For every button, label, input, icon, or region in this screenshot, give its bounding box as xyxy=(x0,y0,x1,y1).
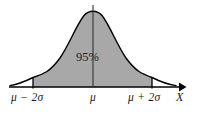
axis-label-mu: μ xyxy=(90,92,96,104)
axis-label-mu-minus-2sigma: μ − 2σ xyxy=(11,92,44,104)
axis-label-mu-plus-2sigma: μ + 2σ xyxy=(128,92,161,104)
normal-distribution-figure: μ − 2σ μ μ + 2σ X 95% xyxy=(0,0,199,114)
axis-label-x: X xyxy=(176,91,183,103)
area-percent-label: 95% xyxy=(76,51,99,64)
